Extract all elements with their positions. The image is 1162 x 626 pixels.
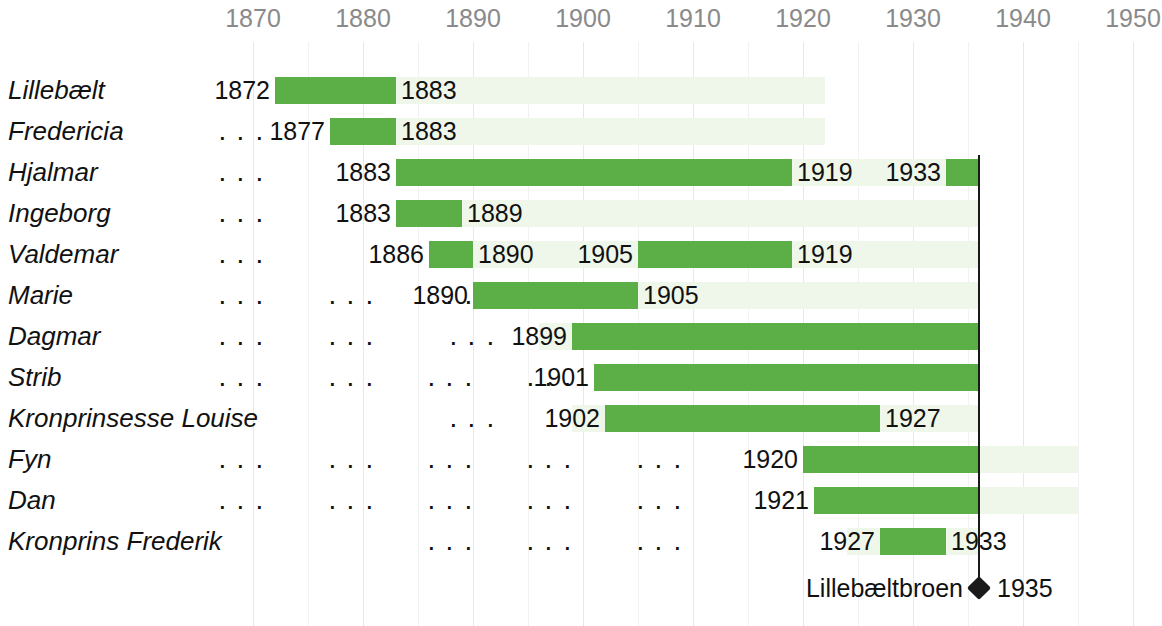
leader-dots: ․ ․ ․ (449, 398, 496, 439)
leader-dots: ․ ․ ․ (218, 111, 265, 152)
milestone-name-label: Lillebæltbroen (806, 576, 963, 601)
leader-dots: ․ ․ ․ (218, 193, 265, 234)
leader-dots: ․ ․ ․ (328, 480, 375, 521)
leader-dots: ․ ․ ․ (427, 439, 474, 480)
timeline-row[interactable]: Kronprinsesse Louise․ ․ ․19021927 (0, 398, 1162, 439)
segment-start-year: 1902 (544, 398, 605, 439)
segment-start-year: 1933 (885, 152, 946, 193)
bar-segment[interactable] (275, 77, 396, 104)
row-label: Kronprins Frederik (8, 521, 222, 562)
row-label: Ingeborg (8, 193, 111, 234)
leader-dots: ․ ․ ․ (218, 316, 265, 357)
leader-dots: ․ ․ ․ (526, 480, 573, 521)
leader-dots: ․ ․ ․ (218, 439, 265, 480)
segment-end-year: 1919 (792, 152, 853, 193)
timeline-row[interactable]: Dan․ ․ ․․ ․ ․․ ․ ․․ ․ ․․ ․ ․1921 (0, 480, 1162, 521)
row-label: Fredericia (8, 111, 124, 152)
leader-dots: ․ ․ ․ (218, 275, 265, 316)
leader-dots: ․ ․ ․ (526, 439, 573, 480)
segment-start-year: 1883 (335, 152, 396, 193)
timeline-row[interactable]: Hjalmar․ ․ ․188319191933 (0, 152, 1162, 193)
segment-end-year: 1890 (473, 234, 534, 275)
timeline-row[interactable]: Fyn․ ․ ․․ ․ ․․ ․ ․․ ․ ․․ ․ ․1920 (0, 439, 1162, 480)
timeline-row[interactable]: Valdemar․ ․ ․1886189019051919 (0, 234, 1162, 275)
leader-dots: ․ ․ ․ (328, 357, 375, 398)
timeline-row[interactable]: Marie․ ․ ․․ ․ ․․ ․ ․18901905 (0, 275, 1162, 316)
segment-end-year: 1883 (396, 70, 457, 111)
segment-start-year: 1921 (753, 480, 814, 521)
bar-segment[interactable] (572, 323, 979, 350)
bar-segment[interactable] (880, 528, 946, 555)
segment-end-year: 1919 (792, 234, 853, 275)
bar-segment[interactable] (814, 487, 979, 514)
timeline-row[interactable]: Ingeborg․ ․ ․18831889 (0, 193, 1162, 234)
segment-start-year: 1890 (412, 275, 473, 316)
segment-start-year: 1886 (368, 234, 429, 275)
timeline-rows: Lillebælt18721883Fredericia․ ․ ․18771883… (0, 0, 1162, 626)
leader-dots: ․ ․ ․ (328, 275, 375, 316)
segment-start-year: 1905 (577, 234, 638, 275)
bar-segment[interactable] (605, 405, 880, 432)
leader-dots: ․ ․ ․ (636, 480, 683, 521)
leader-dots: ․ ․ ․ (218, 357, 265, 398)
timeline-row[interactable]: Dagmar․ ․ ․․ ․ ․․ ․ ․1899 (0, 316, 1162, 357)
leader-dots: ․ ․ ․ (218, 234, 265, 275)
row-label: Strib (8, 357, 61, 398)
segment-start-year: 1883 (335, 193, 396, 234)
row-label: Dagmar (8, 316, 100, 357)
row-label: Hjalmar (8, 152, 98, 193)
gantt-timeline-chart: 187018801890190019101920193019401950 Lil… (0, 0, 1162, 626)
bar-segment[interactable] (396, 159, 792, 186)
bar-segment[interactable] (473, 282, 638, 309)
segment-start-year: 1920 (742, 439, 803, 480)
row-label: Kronprinsesse Louise (8, 398, 258, 439)
timeline-row[interactable]: Kronprins Frederik․ ․ ․․ ․ ․․ ․ ․1927193… (0, 521, 1162, 562)
segment-end-year: 1927 (880, 398, 941, 439)
bar-segment[interactable] (803, 446, 979, 473)
leader-dots: ․ ․ ․ (427, 357, 474, 398)
leader-dots: ․ ․ ․ (427, 521, 474, 562)
segment-start-year: 1899 (511, 316, 572, 357)
row-label: Valdemar (8, 234, 118, 275)
segment-end-year: 1883 (396, 111, 457, 152)
segment-start-year: 1927 (819, 521, 880, 562)
leader-dots: ․ ․ ․ (526, 521, 573, 562)
row-label: Lillebælt (8, 70, 105, 111)
bar-segment[interactable] (330, 118, 396, 145)
bar-segment[interactable] (429, 241, 473, 268)
milestone-vertical-line (978, 155, 980, 588)
segment-start-year: 1877 (269, 111, 330, 152)
leader-dots: ․ ․ ․ (328, 316, 375, 357)
leader-dots: ․ ․ ․ (636, 439, 683, 480)
bar-segment[interactable] (396, 200, 462, 227)
timeline-row[interactable]: Strib․ ․ ․․ ․ ․․ ․ ․․ ․ ․1901 (0, 357, 1162, 398)
milestone-year-label: 1935 (997, 576, 1053, 601)
leader-dots: ․ ․ ․ (328, 439, 375, 480)
bar-segment[interactable] (594, 364, 979, 391)
leader-dots: ․ ․ ․ (636, 521, 683, 562)
leader-dots: ․ ․ ․ (218, 480, 265, 521)
segment-end-year: 1889 (462, 193, 523, 234)
segment-end-year: 1933 (946, 521, 1007, 562)
segment-start-year: 1901 (533, 357, 594, 398)
timeline-row[interactable]: Fredericia․ ․ ․18771883 (0, 111, 1162, 152)
bar-segment[interactable] (946, 159, 979, 186)
row-label: Fyn (8, 439, 51, 480)
timeline-row[interactable]: Lillebælt18721883 (0, 70, 1162, 111)
segment-start-year: 1872 (214, 70, 275, 111)
row-label: Marie (8, 275, 73, 316)
leader-dots: ․ ․ ․ (427, 480, 474, 521)
leader-dots: ․ ․ ․ (449, 316, 496, 357)
bar-segment[interactable] (638, 241, 792, 268)
row-label: Dan (8, 480, 56, 521)
leader-dots: ․ ․ ․ (218, 152, 265, 193)
segment-end-year: 1905 (638, 275, 699, 316)
